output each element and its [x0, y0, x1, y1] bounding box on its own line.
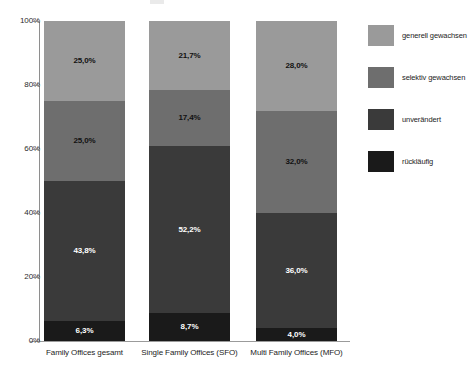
- y-axis-tick-mark: [33, 85, 40, 86]
- bar-segment-value-label: 43,8%: [73, 247, 95, 255]
- bar-segment[interactable]: 17,4%: [149, 90, 230, 146]
- bar-segment-value-label: 6,3%: [76, 327, 94, 335]
- bar-segment-value-label: 8,7%: [181, 323, 199, 331]
- bar-segment-value-label: 25,0%: [73, 57, 95, 65]
- legend-item[interactable]: generell gewachsen: [368, 25, 475, 46]
- x-axis-category-label: Family Offices gesamt: [26, 348, 143, 357]
- stacked-bar-chart: 0%20%40%60%80%100% 6,3%43,8%25,0%25,0%8,…: [0, 0, 475, 366]
- legend-label: generell gewachsen: [402, 31, 467, 40]
- cropped-title-artifact: [150, 0, 164, 4]
- bar-segment-value-label: 4,0%: [288, 331, 306, 339]
- bar-segment-value-label: 17,4%: [178, 114, 200, 122]
- bar-segment[interactable]: 36,0%: [256, 213, 337, 328]
- bar-segment[interactable]: 25,0%: [44, 101, 125, 181]
- bar-column[interactable]: 6,3%43,8%25,0%25,0%: [44, 21, 125, 341]
- legend-label: unverändert: [402, 115, 441, 124]
- y-axis-tick-mark: [33, 213, 40, 214]
- legend-item[interactable]: unverändert: [368, 109, 475, 130]
- bar-segment[interactable]: 8,7%: [149, 313, 230, 341]
- bar-segment-value-label: 36,0%: [285, 267, 307, 275]
- bar-segment[interactable]: 21,7%: [149, 21, 230, 90]
- bar-segment[interactable]: 6,3%: [44, 321, 125, 341]
- y-axis-tick-label: 0%: [10, 336, 40, 345]
- plot-area: 6,3%43,8%25,0%25,0%8,7%52,2%17,4%21,7%4,…: [44, 21, 337, 341]
- bar-segment[interactable]: 25,0%: [44, 21, 125, 101]
- bar-column[interactable]: 4,0%36,0%32,0%28,0%: [256, 21, 337, 341]
- legend-swatch: [368, 25, 394, 46]
- bar-segment[interactable]: 52,2%: [149, 146, 230, 313]
- legend-item[interactable]: rückläufig: [368, 151, 475, 172]
- bar-segment[interactable]: 32,0%: [256, 111, 337, 213]
- x-axis-category-label: Multi Family Offices (MFO): [238, 348, 355, 357]
- x-axis-line: [30, 341, 350, 342]
- legend-label: selektiv gewachsen: [402, 73, 465, 82]
- legend-item[interactable]: selektiv gewachsen: [368, 67, 475, 88]
- bar-segment-value-label: 28,0%: [285, 62, 307, 70]
- y-axis-tick-mark: [33, 21, 40, 22]
- bar-segment-value-label: 32,0%: [285, 158, 307, 166]
- bar-segment[interactable]: 28,0%: [256, 21, 337, 111]
- y-axis-tick-mark: [33, 277, 40, 278]
- x-axis-category-label: Single Family Offices (SFO): [131, 348, 248, 357]
- bar-segment-value-label: 52,2%: [178, 226, 200, 234]
- legend-swatch: [368, 67, 394, 88]
- y-axis-line: [39, 21, 40, 342]
- bar-segment[interactable]: 4,0%: [256, 328, 337, 341]
- legend-swatch: [368, 109, 394, 130]
- y-axis-tick-mark: [33, 149, 40, 150]
- bar-segment[interactable]: 43,8%: [44, 181, 125, 321]
- bar-segment-value-label: 21,7%: [178, 52, 200, 60]
- bar-column[interactable]: 8,7%52,2%17,4%21,7%: [149, 21, 230, 341]
- legend-label: rückläufig: [402, 157, 433, 166]
- bar-segment-value-label: 25,0%: [73, 137, 95, 145]
- legend-swatch: [368, 151, 394, 172]
